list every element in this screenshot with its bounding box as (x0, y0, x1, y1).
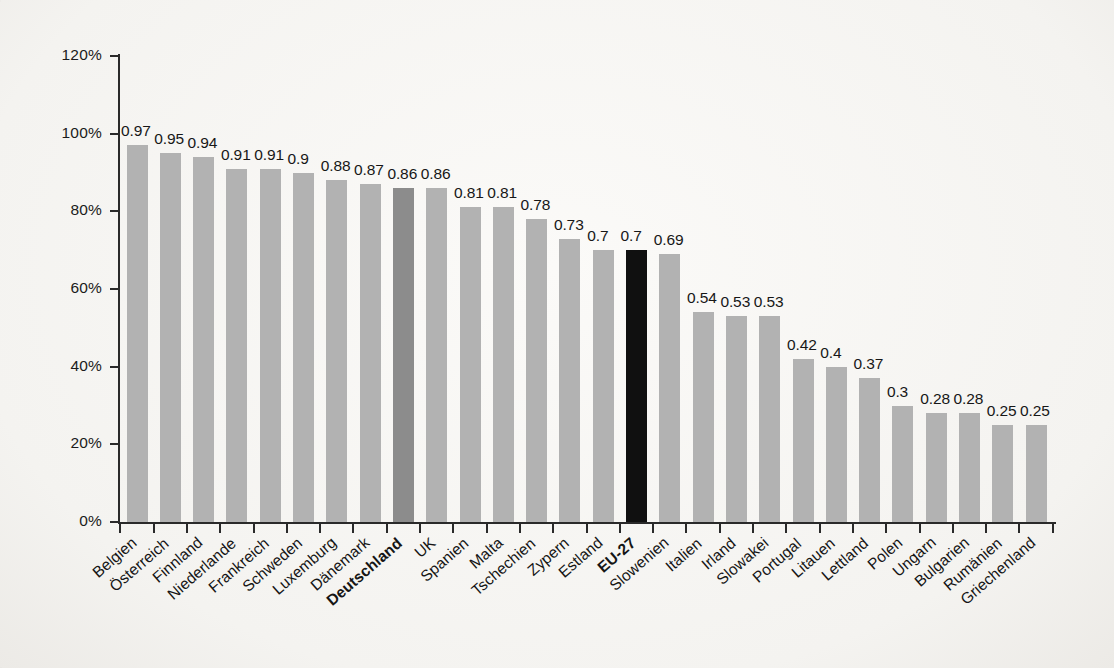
bar-value-label: 0.78 (521, 196, 551, 214)
bar-chart: 0%20%40%60%80%100%120% 0.970.950.940.910… (0, 0, 1114, 668)
bar-zypern[interactable] (559, 239, 580, 522)
x-axis-tick-mark (985, 523, 987, 533)
x-axis-tick-mark (419, 523, 421, 533)
x-axis-tick-mark (286, 523, 288, 533)
bar-value-label: 0.86 (421, 165, 451, 183)
y-axis-tick-mark (110, 55, 119, 57)
bar-uk[interactable] (426, 188, 447, 522)
y-axis-tick-mark (110, 133, 119, 135)
x-axis-tick-mark (752, 523, 754, 533)
x-axis-tick-mark (352, 523, 354, 533)
bar-value-label: 0.28 (920, 390, 950, 408)
bar-value-label: 0.42 (787, 336, 817, 354)
x-axis-tick-mark (852, 523, 854, 533)
bar-eu-27[interactable] (626, 250, 647, 522)
bar-deutschland[interactable] (393, 188, 414, 522)
bar-polen[interactable] (892, 406, 913, 523)
y-axis-tick-label: 60% (40, 279, 102, 297)
x-axis-tick-mark (819, 523, 821, 533)
x-axis-tick-mark (319, 523, 321, 533)
x-axis-tick-mark (685, 523, 687, 533)
bar-slowakei[interactable] (759, 316, 780, 522)
x-axis-tick-mark (519, 523, 521, 533)
x-axis-tick-mark (885, 523, 887, 533)
bar-value-label: 0.69 (654, 231, 684, 249)
x-axis-tick-mark (186, 523, 188, 533)
y-axis-tick-mark (110, 210, 119, 212)
bar-value-label: 0.9 (288, 150, 309, 168)
y-axis-tick-label: 120% (40, 46, 102, 64)
bar-belgien[interactable] (127, 145, 148, 522)
x-axis-tick-mark (1018, 523, 1020, 533)
y-axis-tick-mark (110, 443, 119, 445)
x-axis-tick-mark (253, 523, 255, 533)
y-axis-tick-label: 40% (40, 357, 102, 375)
x-axis-tick-mark (486, 523, 488, 533)
x-axis-tick-mark (153, 523, 155, 533)
bar-value-label: 0.37 (854, 355, 884, 373)
bar-niederlande[interactable] (226, 169, 247, 522)
x-axis-tick-mark (952, 523, 954, 533)
bar-value-label: 0.4 (820, 344, 841, 362)
x-axis-tick-mark (719, 523, 721, 533)
bar-value-label: 0.91 (221, 146, 251, 164)
x-axis-tick-mark (652, 523, 654, 533)
bar-value-label: 0.97 (121, 122, 151, 140)
x-axis-tick-mark (119, 523, 121, 533)
y-axis-tick-mark (110, 521, 119, 523)
x-axis-tick-mark (619, 523, 621, 533)
category-label-italien: Italien (662, 534, 706, 575)
bar-value-label: 0.73 (554, 216, 584, 234)
bar-tschechien[interactable] (526, 219, 547, 522)
bar-frankreich[interactable] (260, 169, 281, 522)
bar-value-label: 0.87 (354, 161, 384, 179)
bar-italien[interactable] (693, 312, 714, 522)
bar-slowenien[interactable] (659, 254, 680, 522)
bar-value-label: 0.95 (154, 130, 184, 148)
x-axis-tick-mark (586, 523, 588, 533)
bar-value-label: 0.7 (621, 227, 642, 245)
bar-value-label: 0.88 (321, 157, 351, 175)
bar-luxemburg[interactable] (326, 180, 347, 522)
y-axis-tick-mark (110, 288, 119, 290)
bar-value-label: 0.81 (487, 184, 517, 202)
y-axis-tick-label: 80% (40, 201, 102, 219)
x-axis-tick-mark (552, 523, 554, 533)
bar-value-label: 0.86 (387, 165, 417, 183)
bar-value-label: 0.53 (754, 293, 784, 311)
x-axis-tick-mark (386, 523, 388, 533)
y-axis-tick-label: 100% (40, 124, 102, 142)
bar-spanien[interactable] (460, 207, 481, 522)
bar-portugal[interactable] (793, 359, 814, 522)
bar-value-label: 0.94 (188, 134, 218, 152)
bar-d-nemark[interactable] (360, 184, 381, 522)
x-axis-tick-mark (919, 523, 921, 533)
bar-value-label: 0.81 (454, 184, 484, 202)
bar-estland[interactable] (593, 250, 614, 522)
bar-schweden[interactable] (293, 173, 314, 523)
y-axis-tick-label: 0% (40, 512, 102, 530)
bar-value-label: 0.7 (587, 227, 608, 245)
bar-irland[interactable] (726, 316, 747, 522)
bar-value-label: 0.28 (954, 390, 984, 408)
bar-value-label: 0.3 (887, 383, 908, 401)
bar-value-label: 0.25 (1020, 402, 1050, 420)
x-axis-tick-mark (452, 523, 454, 533)
bar-griechenland[interactable] (1026, 425, 1047, 522)
bar-lettland[interactable] (859, 378, 880, 522)
bar-ungarn[interactable] (926, 413, 947, 522)
x-axis-tick-mark (1052, 523, 1054, 533)
bar-bulgarien[interactable] (959, 413, 980, 522)
y-axis-tick-label: 20% (40, 434, 102, 452)
bar-value-label: 0.91 (254, 146, 284, 164)
bar-finnland[interactable] (193, 157, 214, 522)
bar--sterreich[interactable] (160, 153, 181, 522)
y-axis-tick-mark (110, 366, 119, 368)
bar-value-label: 0.25 (987, 402, 1017, 420)
bar-litauen[interactable] (826, 367, 847, 522)
bar-malta[interactable] (493, 207, 514, 522)
bar-rum-nien[interactable] (992, 425, 1013, 522)
bar-value-label: 0.53 (720, 293, 750, 311)
x-axis-tick-mark (219, 523, 221, 533)
bar-value-label: 0.54 (687, 289, 717, 307)
